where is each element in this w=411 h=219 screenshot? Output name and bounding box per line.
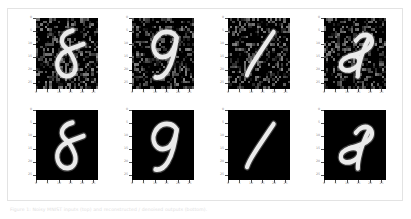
x-tick-label: 25	[283, 91, 287, 94]
x-tick-label: 25	[91, 182, 95, 185]
x-tick-label: 20	[368, 91, 372, 94]
y-tick-labels: 0510152025	[206, 110, 224, 181]
y-tick-label: 5	[222, 121, 224, 124]
figure-screenshot: 0510152025051015202505101520250510152025…	[0, 0, 411, 219]
y-tick-label: 15	[316, 56, 320, 59]
y-tick-label: 20	[316, 160, 320, 163]
x-tick-label: 5	[46, 91, 48, 94]
y-tick-label: 10	[124, 134, 128, 137]
y-tick-label: 15	[28, 147, 32, 150]
panel-axes: 05101520250510152025	[324, 110, 386, 181]
y-ticks	[33, 110, 36, 181]
y-ticks	[129, 110, 132, 181]
digit-panel-noisy-1: 05101520250510152025	[108, 13, 204, 105]
y-tick-label: 0	[222, 16, 224, 19]
y-ticks	[321, 110, 324, 181]
x-tick-label: 0	[323, 182, 325, 185]
y-tick-label: 25	[124, 82, 128, 85]
y-tick-label: 25	[28, 173, 32, 176]
panel-axes: 05101520250510152025	[228, 18, 290, 89]
y-tick-label: 25	[220, 173, 224, 176]
y-tick-label: 10	[28, 43, 32, 46]
y-tick-label: 0	[30, 16, 32, 19]
x-tick-labels: 0510152025	[36, 91, 98, 99]
y-tick-label: 20	[28, 160, 32, 163]
y-tick-label: 0	[318, 108, 320, 111]
y-tick-labels: 0510152025	[110, 18, 128, 89]
x-tick-label: 10	[153, 91, 157, 94]
y-tick-label: 10	[316, 43, 320, 46]
y-tick-label: 5	[318, 121, 320, 124]
x-tick-label: 20	[272, 182, 276, 185]
y-ticks	[321, 18, 324, 89]
y-tick-label: 25	[124, 173, 128, 176]
y-tick-label: 20	[220, 160, 224, 163]
y-tick-label: 0	[30, 108, 32, 111]
x-tick-labels: 0510152025	[36, 182, 98, 190]
x-tick-labels: 0510152025	[324, 91, 386, 99]
y-tick-label: 25	[316, 173, 320, 176]
x-tick-label: 25	[379, 182, 383, 185]
figure-card: 0510152025051015202505101520250510152025…	[7, 8, 403, 201]
x-tick-label: 0	[227, 182, 229, 185]
x-tick-label: 10	[153, 182, 157, 185]
y-tick-label: 5	[222, 29, 224, 32]
panel-axes: 05101520250510152025	[132, 110, 194, 181]
digit-panel-noisy-2: 05101520250510152025	[204, 13, 300, 105]
x-tick-label: 5	[238, 182, 240, 185]
panel-axes: 05101520250510152025	[228, 110, 290, 181]
x-tick-label: 20	[272, 91, 276, 94]
panel-grid: 0510152025051015202505101520250510152025…	[8, 9, 402, 200]
y-tick-label: 20	[28, 69, 32, 72]
digit-image-1	[228, 18, 290, 89]
y-tick-label: 25	[220, 82, 224, 85]
digit-image-2	[324, 18, 386, 89]
digit-image-8	[36, 110, 98, 181]
y-tick-labels: 0510152025	[206, 18, 224, 89]
x-tick-label: 10	[57, 91, 61, 94]
panel-axes: 05101520250510152025	[324, 18, 386, 89]
y-tick-label: 0	[126, 16, 128, 19]
digit-image-9	[132, 110, 194, 181]
x-tick-label: 10	[345, 182, 349, 185]
x-tick-label: 25	[379, 91, 383, 94]
y-tick-labels: 0510152025	[302, 18, 320, 89]
x-tick-label: 10	[57, 182, 61, 185]
x-tick-label: 0	[35, 91, 37, 94]
y-tick-label: 5	[30, 29, 32, 32]
y-tick-label: 15	[124, 147, 128, 150]
x-tick-label: 0	[227, 91, 229, 94]
x-tick-label: 10	[345, 91, 349, 94]
y-tick-labels: 0510152025	[302, 110, 320, 181]
x-tick-label: 0	[323, 91, 325, 94]
x-tick-label: 5	[46, 182, 48, 185]
x-tick-label: 15	[260, 182, 264, 185]
y-tick-labels: 0510152025	[110, 110, 128, 181]
x-tick-label: 20	[368, 182, 372, 185]
y-tick-label: 15	[220, 56, 224, 59]
x-tick-label: 20	[176, 182, 180, 185]
figure-caption: Figure 1: Noisy MNIST inputs (top) and r…	[10, 207, 400, 213]
y-tick-label: 15	[28, 56, 32, 59]
y-tick-label: 10	[316, 134, 320, 137]
x-tick-label: 0	[131, 91, 133, 94]
x-tick-labels: 0510152025	[132, 91, 194, 99]
y-tick-label: 20	[124, 160, 128, 163]
panel-axes: 05101520250510152025	[36, 110, 98, 181]
x-tick-label: 20	[80, 182, 84, 185]
y-tick-label: 10	[220, 134, 224, 137]
digit-image-8	[36, 18, 98, 89]
y-tick-label: 5	[318, 29, 320, 32]
digit-image-2	[324, 110, 386, 181]
x-tick-label: 5	[334, 91, 336, 94]
y-tick-label: 10	[124, 43, 128, 46]
x-tick-label: 15	[260, 91, 264, 94]
x-tick-label: 0	[131, 182, 133, 185]
digit-panel-clean-2: 05101520250510152025	[204, 105, 300, 197]
y-tick-labels: 0510152025	[14, 18, 32, 89]
panel-axes: 05101520250510152025	[36, 18, 98, 89]
x-tick-label: 5	[238, 91, 240, 94]
y-tick-label: 0	[318, 16, 320, 19]
x-tick-label: 5	[142, 182, 144, 185]
digit-panel-clean-0: 05101520250510152025	[12, 105, 108, 197]
